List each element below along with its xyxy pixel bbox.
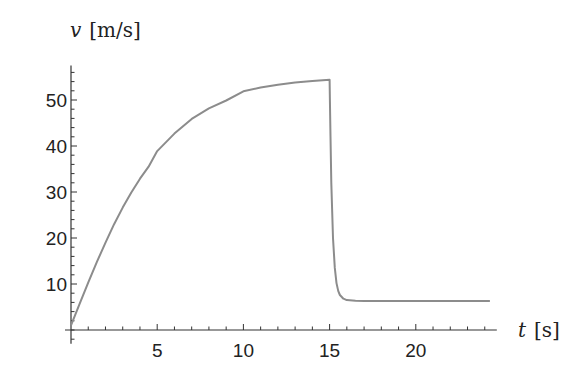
x-tick-label: 5 [152,340,163,361]
y-tick-label: 30 [46,182,67,203]
x-tick-label: 15 [319,340,340,361]
y-tick-label: 10 [46,274,67,295]
y-axis: 1020304050 [46,66,77,344]
x-axis-label: t[s] [518,318,560,342]
x-tick-label: 20 [405,340,426,361]
x-axis: 5101520 [65,324,497,361]
y-tick-label: 20 [46,228,67,249]
velocity-curve [71,80,490,326]
velocity-chart: 1020304050 5101520 v[m/s] t[s] [0,0,573,377]
y-tick-label: 50 [46,90,67,111]
x-tick-label: 10 [233,340,254,361]
y-tick-label: 40 [46,136,67,157]
y-axis-label: v[m/s] [70,18,141,42]
